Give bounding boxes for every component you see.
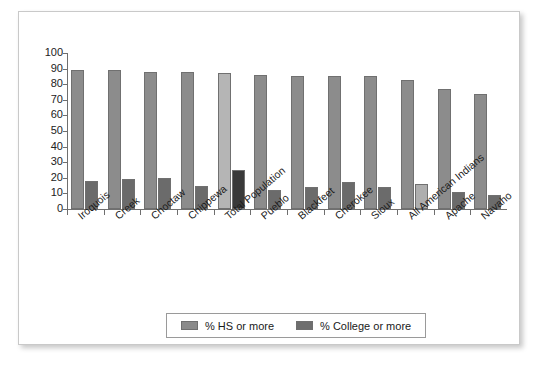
y-axis-tick-label: 80 [17, 78, 63, 89]
legend-item: % College or more [296, 320, 411, 332]
bar-hs-or-more [71, 70, 84, 209]
y-axis-tick-label: 60 [17, 109, 63, 120]
y-axis-tick [63, 131, 68, 132]
y-axis-tick-label: 70 [17, 94, 63, 105]
y-axis-tick-label: 20 [17, 172, 63, 183]
bar-group [401, 53, 432, 209]
y-axis-tick-label: 0 [17, 203, 63, 214]
legend-swatch-icon [296, 321, 313, 330]
y-axis-tick-label: 50 [17, 125, 63, 136]
bar-hs-or-more [401, 80, 414, 209]
legend-swatch-icon [181, 321, 198, 330]
legend-label: % College or more [320, 320, 411, 332]
bar-group [328, 53, 359, 209]
chart-legend: % HS or more% College or more [166, 313, 426, 338]
chart-frame: 0102030405060708090100 IroquoisCreekChoc… [18, 11, 520, 345]
bar-group [474, 53, 505, 209]
y-axis-tick [63, 100, 68, 101]
y-axis-tick [63, 193, 68, 194]
y-axis-tick [63, 53, 68, 54]
y-axis-tick [63, 69, 68, 70]
bar-group [144, 53, 175, 209]
y-axis-tick-label: 30 [17, 156, 63, 167]
bar-hs-or-more [181, 72, 194, 209]
bar-hs-or-more [291, 76, 304, 209]
figure-page: 0102030405060708090100 IroquoisCreekChoc… [0, 0, 539, 372]
bar-group [108, 53, 139, 209]
y-axis-tick-labels: 0102030405060708090100 [15, 53, 63, 209]
y-axis-tick-label: 100 [17, 47, 63, 58]
bar-hs-or-more [144, 72, 157, 209]
y-axis-tick-label: 90 [17, 63, 63, 74]
y-axis-tick [63, 84, 68, 85]
bar-group [181, 53, 212, 209]
x-axis-category-labels: IroquoisCreekChoctawChippewaTotal Popula… [67, 211, 527, 321]
legend-item: % HS or more [181, 320, 274, 332]
y-axis-tick [63, 147, 68, 148]
y-axis-tick [63, 115, 68, 116]
bar-group [71, 53, 102, 209]
y-axis-tick-label: 10 [17, 187, 63, 198]
y-axis-tick [63, 178, 68, 179]
bar-hs-or-more [108, 70, 121, 209]
y-axis-tick [63, 162, 68, 163]
legend-label: % HS or more [205, 320, 274, 332]
figure-caption [4, 362, 304, 372]
bar-group [291, 53, 322, 209]
y-axis-tick-label: 40 [17, 141, 63, 152]
